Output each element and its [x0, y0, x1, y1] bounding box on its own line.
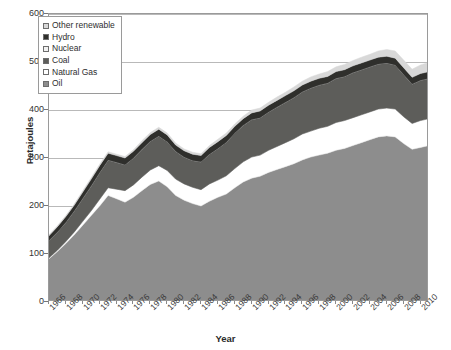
legend-swatch-icon [43, 69, 49, 75]
y-tick-label: 400 [6, 105, 44, 114]
legend-item-label: Nuclear [52, 44, 81, 53]
legend-item-label: Natural Gas [52, 68, 97, 77]
x-axis-title: Year [0, 333, 451, 344]
legend-item: Other renewable [43, 20, 115, 32]
legend-item-label: Coal [52, 56, 69, 65]
y-tick-label: 300 [6, 153, 44, 162]
legend-item: Nuclear [43, 43, 115, 55]
legend-item: Oil [43, 78, 115, 90]
y-tick-label: 200 [6, 201, 44, 210]
legend-item: Hydro [43, 32, 115, 44]
legend-swatch-icon [43, 58, 49, 64]
legend-swatch-icon [43, 23, 49, 29]
legend-item: Natural Gas [43, 66, 115, 78]
chart-legend: Other renewableHydroNuclearCoalNatural G… [38, 16, 122, 94]
y-tick-label: 100 [6, 249, 44, 258]
legend-swatch-icon [43, 46, 49, 52]
legend-swatch-icon [43, 34, 49, 40]
legend-swatch-icon [43, 81, 49, 87]
legend-item: Coal [43, 55, 115, 67]
legend-item-label: Other renewable [52, 21, 115, 30]
legend-item-label: Hydro [52, 33, 75, 42]
chart-page: Petajoules 0100200300400500600 196619681… [0, 0, 451, 350]
legend-item-label: Oil [52, 79, 62, 88]
